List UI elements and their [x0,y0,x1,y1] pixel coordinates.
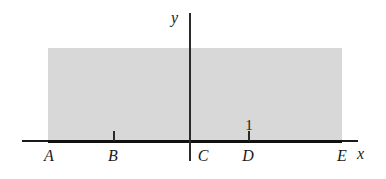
x-axis-emphasis-segment [48,140,342,143]
x-tick-b [113,131,115,141]
x-axis-label: x [357,146,364,162]
shaded-region [48,48,342,142]
y-axis-line [189,13,191,161]
point-label-a: A [40,148,58,164]
point-label-b: B [104,148,122,164]
math-figure: 1 A B C D E x y [0,0,386,179]
point-label-d: D [239,148,257,164]
value-label-one: 1 [241,118,257,133]
point-label-c: C [194,148,212,164]
y-axis-label: y [171,10,178,26]
point-label-e: E [333,148,351,164]
